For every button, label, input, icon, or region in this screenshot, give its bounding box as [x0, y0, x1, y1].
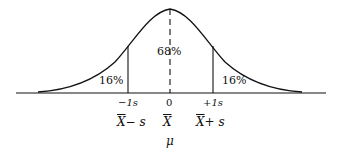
minus-s: − s [126, 115, 146, 129]
normal-distribution-diagram: 16% 68% 16% −1s 0 +1s X− s X X+ s μ [0, 0, 338, 153]
tick-zero: 0 [166, 97, 172, 108]
xbar-minus-s-label: X− s [117, 115, 146, 129]
xbar-plus-s-label: X+ s [196, 115, 225, 129]
right-tail-percent: 16% [222, 74, 246, 87]
center-percent: 68% [157, 45, 181, 58]
bell-curve-graphic [0, 0, 338, 153]
left-tail-percent: 16% [99, 74, 123, 87]
plus-s: + s [205, 115, 225, 129]
xbar-symbol: X [163, 115, 172, 129]
xbar-symbol: X [196, 115, 205, 129]
tick-minus-one-s: −1s [118, 97, 138, 108]
tick-plus-one-s: +1s [203, 97, 223, 108]
mu-label: μ [166, 134, 174, 148]
xbar-symbol: X [117, 115, 126, 129]
xbar-label: X [163, 115, 172, 129]
